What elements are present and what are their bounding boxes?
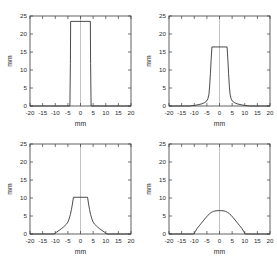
y-tick-label: 5 bbox=[24, 212, 28, 219]
y-tick-label: 10 bbox=[20, 194, 27, 201]
x-tick-label: 5 bbox=[91, 237, 95, 244]
x-tick-label: -10 bbox=[51, 237, 61, 244]
x-tick-label: 10 bbox=[241, 109, 248, 116]
plot-svg-bottom-right: -20-15-10-5051015200510152025mmmm bbox=[139, 128, 277, 256]
x-tick-label: -5 bbox=[65, 109, 71, 116]
y-tick-label: 20 bbox=[20, 30, 27, 37]
y-tick-label: 25 bbox=[159, 140, 166, 147]
x-tick-label: -15 bbox=[177, 237, 187, 244]
x-axis-title: mm bbox=[214, 120, 226, 127]
beam-profile-figure: -20-15-10-5051015200510152025mmmm -20-15… bbox=[0, 0, 277, 257]
x-tick-label: 20 bbox=[267, 109, 274, 116]
plot-svg-bottom-left: -20-15-10-5051015200510152025mmmm bbox=[0, 128, 138, 256]
x-tick-label: 10 bbox=[102, 109, 109, 116]
x-axis-title: mm bbox=[75, 248, 87, 255]
y-tick-label: 0 bbox=[24, 230, 28, 237]
plot-svg-top-left: -20-15-10-5051015200510152025mmmm bbox=[0, 0, 138, 128]
y-tick-label: 5 bbox=[163, 84, 167, 91]
y-tick-label: 25 bbox=[20, 140, 27, 147]
y-tick-label: 15 bbox=[159, 176, 166, 183]
x-axis-title: mm bbox=[75, 120, 87, 127]
x-tick-label: -15 bbox=[177, 109, 187, 116]
x-tick-label: 15 bbox=[115, 237, 122, 244]
y-axis-title: mm bbox=[145, 183, 152, 195]
x-tick-label: -15 bbox=[38, 109, 48, 116]
x-tick-label: -20 bbox=[26, 237, 36, 244]
plot-svg-top-right: -20-15-10-5051015200510152025mmmm bbox=[139, 0, 277, 128]
y-axis-title: mm bbox=[145, 55, 152, 67]
x-tick-label: -10 bbox=[51, 109, 61, 116]
y-axis-title: mm bbox=[6, 55, 13, 67]
x-tick-label: 20 bbox=[128, 237, 135, 244]
x-tick-label: 5 bbox=[91, 109, 95, 116]
y-tick-label: 20 bbox=[159, 158, 166, 165]
y-tick-label: 10 bbox=[159, 66, 166, 73]
x-tick-label: -10 bbox=[190, 109, 200, 116]
x-tick-label: 20 bbox=[267, 237, 274, 244]
y-tick-label: 0 bbox=[24, 102, 28, 109]
y-tick-label: 25 bbox=[20, 12, 27, 19]
x-tick-label: -20 bbox=[26, 109, 36, 116]
y-tick-label: 15 bbox=[20, 176, 27, 183]
y-tick-label: 10 bbox=[20, 66, 27, 73]
x-axis-title: mm bbox=[214, 248, 226, 255]
x-tick-label: 15 bbox=[254, 109, 261, 116]
plot-content-top-right: -20-15-10-5051015200510152025mmmm bbox=[145, 12, 274, 127]
x-tick-label: 0 bbox=[218, 237, 222, 244]
y-tick-label: 0 bbox=[163, 102, 167, 109]
x-tick-label: -5 bbox=[65, 237, 71, 244]
x-tick-label: -15 bbox=[38, 237, 48, 244]
x-tick-label: 0 bbox=[79, 109, 83, 116]
y-tick-label: 5 bbox=[163, 212, 167, 219]
x-tick-label: -5 bbox=[204, 237, 210, 244]
x-tick-label: 5 bbox=[230, 237, 234, 244]
y-tick-label: 20 bbox=[159, 30, 166, 37]
x-tick-label: 10 bbox=[102, 237, 109, 244]
plot-content-bottom-left: -20-15-10-5051015200510152025mmmm bbox=[6, 140, 135, 255]
y-tick-label: 15 bbox=[20, 48, 27, 55]
plot-content-top-left: -20-15-10-5051015200510152025mmmm bbox=[6, 12, 135, 127]
y-tick-label: 5 bbox=[24, 84, 28, 91]
x-tick-label: 10 bbox=[241, 237, 248, 244]
plot-panel-top-right: -20-15-10-5051015200510152025mmmm bbox=[139, 0, 277, 128]
x-tick-label: -20 bbox=[165, 237, 175, 244]
plot-panel-top-left: -20-15-10-5051015200510152025mmmm bbox=[0, 0, 138, 128]
x-tick-label: 0 bbox=[79, 237, 83, 244]
plot-panel-bottom-right: -20-15-10-5051015200510152025mmmm bbox=[139, 128, 277, 256]
x-tick-label: -10 bbox=[190, 237, 200, 244]
x-tick-label: 0 bbox=[218, 109, 222, 116]
x-tick-label: 5 bbox=[230, 109, 234, 116]
y-axis-title: mm bbox=[6, 183, 13, 195]
x-tick-label: 15 bbox=[115, 109, 122, 116]
y-tick-label: 25 bbox=[159, 12, 166, 19]
plot-panel-bottom-left: -20-15-10-5051015200510152025mmmm bbox=[0, 128, 138, 256]
y-tick-label: 15 bbox=[159, 48, 166, 55]
y-tick-label: 20 bbox=[20, 158, 27, 165]
x-tick-label: 20 bbox=[128, 109, 135, 116]
x-tick-label: -20 bbox=[165, 109, 175, 116]
x-tick-label: -5 bbox=[204, 109, 210, 116]
y-tick-label: 0 bbox=[163, 230, 167, 237]
x-tick-label: 15 bbox=[254, 237, 261, 244]
plot-content-bottom-right: -20-15-10-5051015200510152025mmmm bbox=[145, 140, 274, 255]
y-tick-label: 10 bbox=[159, 194, 166, 201]
